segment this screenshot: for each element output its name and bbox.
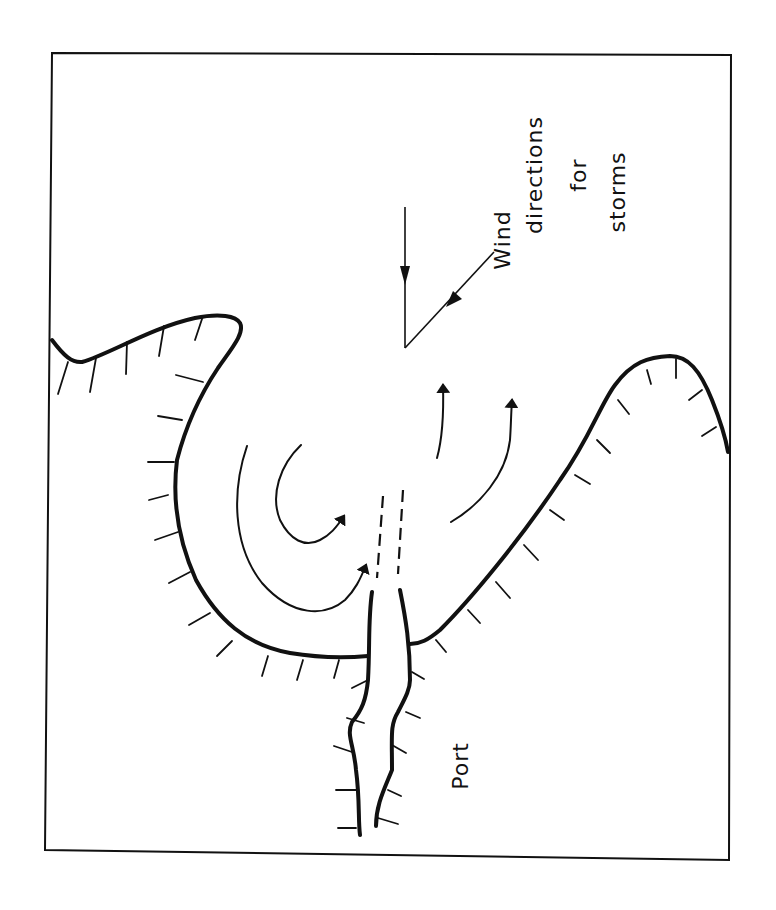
- wind-label-line1: Wind: [490, 210, 515, 269]
- breakwaters: [377, 490, 403, 578]
- flow-arrows: [237, 385, 512, 611]
- wind-label-line3: for: [566, 158, 591, 191]
- coastline-east: [410, 356, 728, 652]
- harbor-diagram: Wind directions for storms Port: [0, 0, 776, 910]
- port-label: Port: [448, 742, 473, 790]
- coastline-bay: [52, 316, 368, 680]
- wind-arrows: [400, 207, 494, 348]
- port-channel: [334, 590, 424, 835]
- wind-arrowhead-diagonal: [446, 291, 462, 307]
- wind-arrowhead-vertical: [400, 266, 410, 285]
- wind-label: Wind directions for storms: [490, 116, 630, 270]
- wind-label-line2: directions: [522, 116, 547, 234]
- wind-label-line4: storms: [605, 151, 630, 232]
